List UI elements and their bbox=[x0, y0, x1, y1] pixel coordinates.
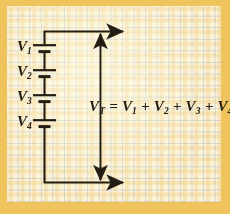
battery-label-v1-main: V bbox=[17, 38, 27, 54]
battery-label-v4-sub: 4 bbox=[27, 121, 32, 131]
battery-label-v3-main: V bbox=[17, 88, 27, 104]
equation-term-3-main: V bbox=[186, 98, 196, 114]
equation-equals: = bbox=[109, 98, 118, 114]
equation-lhs-sub: T bbox=[99, 106, 105, 116]
equation-term-1-sub: 1 bbox=[132, 106, 137, 116]
battery-cell-3 bbox=[33, 95, 56, 101]
battery-cell-2 bbox=[33, 70, 56, 76]
equation-term-1-main: V bbox=[122, 98, 132, 114]
battery-cell-1 bbox=[33, 45, 56, 51]
battery-cell-4 bbox=[33, 120, 56, 126]
equation-plus-3: + bbox=[205, 98, 214, 114]
equation-term-2-main: V bbox=[154, 98, 164, 114]
equation-term-2-sub: 2 bbox=[164, 106, 169, 116]
equation-plus-2: + bbox=[173, 98, 182, 114]
battery-label-v1-sub: 1 bbox=[27, 46, 32, 56]
battery-label-v3-sub: 3 bbox=[27, 96, 32, 106]
battery-label-v3: V3 bbox=[17, 89, 32, 104]
figure-root: V1 V2 V3 V4 VT = V1 + V2 + V3 + V4 bbox=[0, 0, 230, 214]
equation-term-4-sub: 4 bbox=[228, 106, 230, 116]
battery-label-v4-main: V bbox=[17, 113, 27, 129]
battery-label-v2: V2 bbox=[17, 64, 32, 79]
equation-lhs-main: V bbox=[89, 98, 99, 114]
battery-label-v2-main: V bbox=[17, 63, 27, 79]
battery-label-v1: V1 bbox=[17, 39, 32, 54]
equation-term-4-main: V bbox=[217, 98, 227, 114]
equation-plus-1: + bbox=[141, 98, 150, 114]
battery-label-v2-sub: 2 bbox=[27, 71, 32, 81]
battery-label-v4: V4 bbox=[17, 114, 32, 129]
total-voltage-equation: VT = V1 + V2 + V3 + V4 bbox=[89, 99, 230, 114]
equation-term-3-sub: 3 bbox=[196, 106, 201, 116]
